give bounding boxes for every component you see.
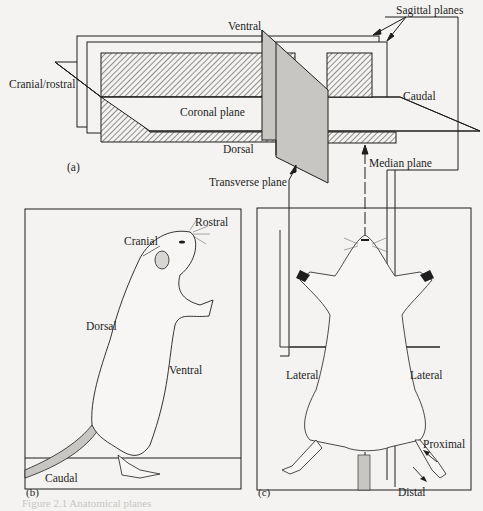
panel-b [25,209,241,489]
label-proximal: Proximal [423,438,465,450]
diagram-svg [0,0,483,511]
label-caudal-a: Caudal [403,90,436,102]
panel-c-tag: (c) [258,486,270,498]
rat-hindleg-left [282,440,322,474]
rat-body-side [92,231,213,455]
label-rostral: Rostral [195,216,228,228]
label-ventral-b: Ventral [169,364,202,376]
rat-eye [179,241,185,244]
label-dorsal-a: Dorsal [223,143,254,155]
label-ventral-a: Ventral [228,20,261,32]
rat-tail [25,425,98,478]
label-lateral-right: Lateral [410,369,443,381]
transverse-connector [280,165,296,356]
rat-ear [155,251,169,269]
label-lateral-left: Lateral [286,369,319,381]
coronal-right-hatch [327,53,372,97]
label-dorsal-b: Dorsal [86,320,117,332]
rat-body-ventral [300,235,432,451]
figure-caption: Figure 2.1 Anatomical planes [22,497,152,509]
anatomical-planes-figure: Sagittal planes Ventral Cranial/rostral … [0,0,483,511]
label-cranial-rostral: Cranial/rostral [9,78,75,90]
label-sagittal-planes: Sagittal planes [396,4,463,16]
label-cranial: Cranial [124,235,158,247]
panel-a-tag: (a) [67,161,80,173]
label-coronal-plane: Coronal plane [180,106,245,118]
label-caudal-b: Caudal [45,472,78,484]
label-median-plane: Median plane [369,157,432,169]
label-distal: Distal [398,486,425,498]
label-transverse-plane: Transverse plane [209,176,287,188]
rat-tail-ventral [358,455,370,490]
coronal-right-hatch-lower [327,132,396,143]
